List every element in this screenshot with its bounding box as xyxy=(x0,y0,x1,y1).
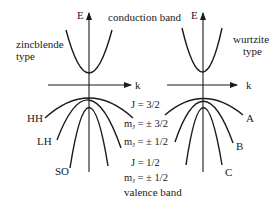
zincblende-type-line1: zincblende xyxy=(16,38,64,50)
mj-three-halves-label: mJ = ± 3/2 xyxy=(124,118,168,131)
zincblende-panel: E k zincblende type HH LH SO xyxy=(16,9,141,177)
left-energy-label: E xyxy=(77,9,84,21)
band-structure-diagram: E k zincblende type HH LH SO conduction … xyxy=(0,0,273,206)
hh-band-label: HH xyxy=(27,112,43,124)
quantum-number-labels: J = 3/2 mJ = ± 3/2 mJ = ± 1/2 J = 1/2 mJ… xyxy=(124,99,168,185)
right-conduction-band-curve xyxy=(182,28,222,72)
mj-one-half-so-label: mJ = ± 1/2 xyxy=(124,172,168,185)
left-k-label: k xyxy=(135,79,141,91)
zincblende-type-line2: type xyxy=(16,50,35,62)
mj-one-half-hh-lh-label: mJ = ± 1/2 xyxy=(124,136,168,149)
wurtzite-panel: E k wurtzite type A B C xyxy=(165,9,269,178)
a-band-label: A xyxy=(246,112,254,124)
lh-band-label: LH xyxy=(37,135,52,147)
b-band-label: B xyxy=(236,140,243,152)
c-band-label: C xyxy=(225,166,232,178)
j-three-halves-label: J = 3/2 xyxy=(131,99,160,110)
wurtzite-type-line2: type xyxy=(243,45,262,57)
wurtzite-type-line1: wurtzite xyxy=(233,33,269,45)
conduction-band-label: conduction band xyxy=(108,11,182,23)
so-band-label: SO xyxy=(55,165,69,177)
j-one-half-label: J = 1/2 xyxy=(131,157,160,168)
valence-band-label: valence band xyxy=(124,186,182,198)
right-energy-label: E xyxy=(191,9,198,21)
right-k-label: k xyxy=(246,79,252,91)
c-band-curve xyxy=(186,108,222,166)
